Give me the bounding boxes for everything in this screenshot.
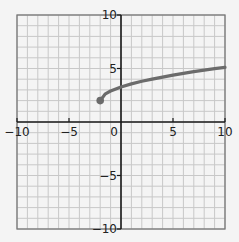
- y-tick-label: 10: [102, 8, 117, 22]
- x-tick-label: 10: [217, 125, 232, 139]
- start-point-dot: [96, 97, 104, 105]
- x-tick-label: −5: [60, 125, 78, 139]
- y-tick-label: −10: [92, 222, 117, 236]
- coordinate-plane: −10−50510105−5−10: [0, 0, 239, 242]
- y-tick-label: −5: [99, 169, 117, 183]
- x-tick-label: 5: [169, 125, 177, 139]
- x-tick-label: −10: [4, 125, 29, 139]
- x-tick-label: 0: [110, 125, 118, 139]
- y-tick-label: 5: [109, 62, 117, 76]
